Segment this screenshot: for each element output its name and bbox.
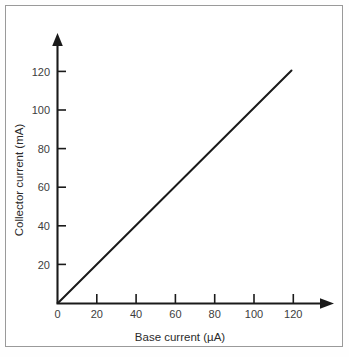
y-tick-label-40: 40	[38, 220, 50, 232]
y-tick-label-100: 100	[32, 104, 50, 116]
data-series-line	[59, 71, 292, 303]
y-axis-title: Collector current (mA)	[13, 124, 25, 237]
x-axis-title: Base current (µA)	[135, 331, 226, 343]
y-axis-arrow-icon	[52, 33, 63, 46]
x-tick-label-20: 20	[91, 308, 103, 320]
x-tick-label-60: 60	[169, 308, 181, 320]
chart-plot-area: 20 40 60 80 100 120 0 20 40 60 80 100 12…	[0, 0, 349, 357]
y-tick-label-80: 80	[38, 143, 50, 155]
x-tick-label-40: 40	[130, 308, 142, 320]
x-tick-label-80: 80	[209, 308, 221, 320]
y-tick-label-60: 60	[38, 181, 50, 193]
figure-container: 20 40 60 80 100 120 0 20 40 60 80 100 12…	[0, 0, 349, 357]
x-tick-label-100: 100	[245, 308, 263, 320]
x-tick-label-0: 0	[54, 308, 60, 320]
x-tick-label-120: 120	[284, 308, 302, 320]
y-tick-label-120: 120	[32, 66, 50, 78]
y-tick-label-20: 20	[38, 259, 50, 271]
x-axis-arrow-icon	[320, 298, 334, 309]
